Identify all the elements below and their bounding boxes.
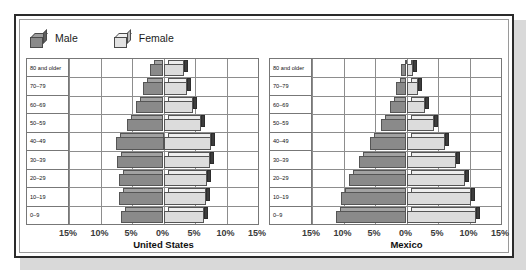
- bar-female: [407, 78, 419, 94]
- bar-3d-side: [201, 115, 205, 127]
- cube-icon: [30, 33, 47, 48]
- bar-male: [381, 115, 406, 131]
- age-band-labels-mx: 80 and older70–7960–6950–5940–4930–3920–…: [269, 58, 311, 225]
- bar-female: [164, 133, 212, 149]
- gridline-vertical: [69, 59, 70, 224]
- bar-male: [119, 188, 164, 204]
- age-band-label: 50–59: [270, 114, 311, 132]
- gridline-vertical: [227, 59, 228, 224]
- bar-female: [407, 115, 434, 131]
- x-axis-tick-label: 15%: [248, 228, 266, 238]
- age-band-label: 10–19: [270, 188, 311, 206]
- bar-female: [164, 78, 188, 94]
- x-axis-tick-label: 10%: [216, 228, 234, 238]
- plot-wrap: 80 and older70–7960–6950–5940–4930–3920–…: [26, 58, 259, 225]
- bar-female: [164, 188, 207, 204]
- x-axis-mx: 15%10%5%0%5%10%15%: [311, 225, 502, 240]
- x-axis-tick-label: 5%: [124, 228, 137, 238]
- bar-3d-side: [476, 207, 480, 219]
- bar-female: [164, 207, 205, 223]
- bar-male: [119, 170, 163, 186]
- x-axis-tick-label: 10%: [333, 228, 351, 238]
- bar-3d-side: [207, 170, 211, 182]
- legend-item-female: Female: [114, 29, 174, 48]
- bar-3d-side: [456, 152, 460, 164]
- bar-female: [407, 152, 456, 168]
- age-band-label: 60–69: [27, 96, 68, 114]
- pyramid-plot-mx: [311, 58, 502, 225]
- age-band-label: 0–9: [270, 207, 311, 224]
- age-band-label: 70–79: [27, 77, 68, 95]
- bar-3d-side: [425, 97, 429, 109]
- bar-female: [407, 207, 476, 223]
- bar-male: [359, 152, 407, 168]
- bar-male: [150, 60, 164, 76]
- chart-united-states: 80 and older70–7960–6950–5940–4930–3920–…: [26, 58, 259, 250]
- x-axis-tick-label: 15%: [491, 228, 509, 238]
- bar-3d-side: [211, 133, 215, 145]
- bar-3d-side: [204, 207, 208, 219]
- bar-3d-side: [193, 97, 197, 109]
- chart-mexico: 80 and older70–7960–6950–5940–4930–3920–…: [269, 58, 502, 250]
- bar-male: [117, 152, 164, 168]
- bar-3d-side: [187, 78, 191, 90]
- bar-male: [370, 133, 407, 149]
- bar-male: [136, 97, 163, 113]
- chart-legend: Male Female: [30, 23, 174, 53]
- charts-container: 80 and older70–7960–6950–5940–4930–3920–…: [26, 58, 502, 250]
- bar-male: [116, 133, 163, 149]
- bar-male: [396, 78, 406, 94]
- bar-3d-side: [206, 188, 210, 200]
- age-band-label: 30–39: [270, 151, 311, 169]
- age-band-label: 30–39: [27, 151, 68, 169]
- age-band-label: 40–49: [270, 133, 311, 151]
- age-band-label: 20–29: [270, 170, 311, 188]
- bar-female: [164, 152, 211, 168]
- age-band-label: 80 and older: [270, 59, 311, 77]
- bar-male: [390, 97, 406, 113]
- bar-female: [164, 115, 202, 131]
- age-band-label: 60–69: [270, 96, 311, 114]
- gridline-vertical: [312, 59, 313, 224]
- bar-3d-side: [434, 115, 438, 127]
- x-axis-tick-label: 15%: [302, 228, 320, 238]
- bar-3d-side: [471, 188, 475, 200]
- figure-frame: Male Female 80 and older70–7960–6950–594…: [14, 14, 514, 258]
- bar-3d-side: [445, 133, 449, 145]
- x-axis-tick-label: 5%: [430, 228, 443, 238]
- x-axis-tick-label: 5%: [367, 228, 380, 238]
- age-band-label: 40–49: [27, 133, 68, 151]
- legend-label-female: Female: [139, 32, 174, 44]
- x-axis-tick-label: 10%: [459, 228, 477, 238]
- x-axis-tick-label: 15%: [59, 228, 77, 238]
- x-axis-tick-label: 0%: [399, 228, 412, 238]
- bar-3d-side: [184, 60, 188, 72]
- bar-female: [164, 97, 194, 113]
- chart-title-us: United States: [68, 239, 259, 250]
- bar-3d-side: [413, 60, 417, 72]
- bar-male: [121, 207, 164, 223]
- age-band-label: 70–79: [270, 77, 311, 95]
- bar-female: [407, 60, 414, 76]
- bar-male: [349, 170, 407, 186]
- bar-male: [336, 207, 407, 223]
- bar-female: [407, 188, 472, 204]
- gridline-vertical: [101, 59, 102, 224]
- age-band-label: 10–19: [27, 188, 68, 206]
- age-band-labels-us: 80 and older70–7960–6950–5940–4930–3920–…: [26, 58, 68, 225]
- cube-icon: [114, 33, 131, 48]
- bar-3d-side: [465, 170, 469, 182]
- age-band-label: 0–9: [27, 207, 68, 224]
- gridline-vertical: [501, 59, 502, 224]
- bar-female: [407, 170, 466, 186]
- chart-title-mx: Mexico: [311, 239, 502, 250]
- legend-item-male: Male: [30, 29, 78, 48]
- bar-female: [164, 60, 184, 76]
- gridline-vertical: [258, 59, 259, 224]
- plot-wrap: 80 and older70–7960–6950–5940–4930–3920–…: [269, 58, 502, 225]
- x-axis-tick-label: 10%: [90, 228, 108, 238]
- bar-3d-side: [418, 78, 422, 90]
- bar-male: [127, 115, 164, 131]
- age-band-label: 50–59: [27, 114, 68, 132]
- x-axis-tick-label: 5%: [187, 228, 200, 238]
